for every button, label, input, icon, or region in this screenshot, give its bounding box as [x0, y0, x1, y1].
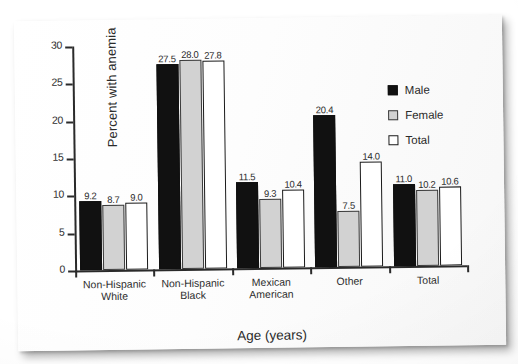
bar-value-label: 27.8: [204, 50, 221, 61]
bar-group-bars: 27.528.027.8: [156, 44, 227, 269]
bar-value-label: 11.0: [395, 173, 412, 184]
bar-value-label: 10.2: [418, 179, 435, 190]
x-axis-category-line: Other: [336, 275, 362, 287]
bar-group: 27.528.027.8Non-HispanicBlack: [156, 44, 227, 269]
y-axis-tick-label: 30: [51, 39, 62, 51]
bar-group: 9.28.79.0Non-HispanicWhite: [77, 45, 148, 270]
bar-male: 11.0: [393, 184, 416, 266]
legend-swatch-male-icon: [388, 85, 398, 95]
bar-female: 9.3: [259, 198, 282, 268]
y-axis-tick-label: 10: [53, 188, 64, 200]
bar-male: 20.4: [314, 115, 338, 268]
y-axis-tick-label: 20: [52, 113, 63, 125]
legend-item-male: Male: [388, 84, 444, 97]
legend-swatch-female-icon: [388, 110, 398, 120]
bar-male: 9.2: [79, 201, 102, 270]
bar-group-bars: 11.59.310.4: [234, 43, 305, 268]
y-axis-tick: 10: [67, 196, 74, 198]
x-axis-category-line: Non-Hispanic: [83, 278, 146, 291]
legend-label-total: Total: [405, 134, 429, 146]
x-axis-category-line: American: [249, 288, 294, 301]
x-axis-category-label: Non-HispanicWhite: [83, 278, 146, 303]
bar-group: 11.59.310.4MexicanAmerican: [234, 43, 305, 268]
bar-value-label: 28.0: [181, 49, 198, 60]
bar-total: 9.0: [125, 202, 148, 269]
y-axis-tick: 20: [66, 121, 73, 123]
bar-groups: 9.28.79.0Non-HispanicWhite27.528.027.8No…: [72, 41, 472, 46]
legend-label-female: Female: [405, 109, 444, 122]
bar-total: 27.8: [202, 61, 227, 269]
y-axis-tick-label: 5: [59, 225, 65, 237]
y-axis-tick-label: 0: [59, 263, 65, 275]
bar-female: 8.7: [102, 205, 125, 270]
bar-value-label: 9.2: [84, 190, 96, 201]
x-axis-tick: [232, 268, 234, 275]
bar-total: 10.4: [282, 190, 305, 268]
printed-page-sheet: 051015202530 Percent with anemia Age (ye…: [14, 15, 506, 351]
x-axis-title: Age (years): [76, 325, 468, 345]
x-axis-category-label: MexicanAmerican: [249, 276, 294, 301]
x-axis-category-label: Other: [336, 275, 362, 287]
bar-group: 20.47.514.0Other: [313, 42, 384, 267]
x-axis-category-label: Non-HispanicBlack: [161, 276, 224, 301]
bar-value-label: 10.6: [441, 175, 458, 186]
bar-group-bars: 9.28.79.0: [77, 45, 148, 270]
bar-value-label: 20.4: [316, 104, 333, 115]
chart-legend: Male Female Total: [388, 84, 444, 160]
y-axis-tick: 15: [67, 158, 74, 160]
bar-value-label: 9.3: [264, 187, 276, 198]
x-axis-category-line: Total: [417, 274, 439, 286]
x-axis-tick: [389, 266, 391, 273]
y-axis-tick: 25: [66, 84, 73, 86]
bar-male: 11.5: [236, 182, 259, 268]
legend-label-male: Male: [405, 84, 430, 96]
y-axis-tick: 0: [68, 270, 75, 272]
y-axis-tick: 30: [65, 46, 72, 48]
y-axis-tick-label: 25: [51, 76, 62, 88]
x-axis-category-line: White: [83, 290, 146, 303]
x-axis-tick: [75, 270, 77, 277]
page-surface: 051015202530 Percent with anemia Age (ye…: [14, 15, 506, 351]
bar-female: 7.5: [338, 211, 361, 267]
chart-photo-scene: 051015202530 Percent with anemia Age (ye…: [0, 0, 518, 364]
bar-value-label: 7.5: [342, 200, 354, 211]
x-axis-tick: [310, 267, 312, 274]
bar-value-label: 8.7: [107, 194, 119, 205]
bar-value-label: 27.5: [158, 53, 175, 64]
x-axis-category-label: Total: [417, 274, 439, 286]
x-axis-tick: [154, 269, 156, 276]
plot-area: 051015202530 Percent with anemia Age (ye…: [72, 41, 475, 302]
x-axis-category-line: Black: [161, 288, 224, 301]
y-axis-tick: 5: [68, 233, 75, 235]
bar-value-label: 10.4: [284, 179, 301, 190]
x-axis-category-line: Non-Hispanic: [161, 276, 224, 289]
bar-value-label: 11.5: [239, 171, 256, 182]
bar-group-bars: 20.47.514.0: [313, 42, 384, 267]
bar-value-label: 9.0: [130, 191, 142, 202]
legend-swatch-total-icon: [388, 135, 398, 145]
legend-item-total: Total: [388, 134, 444, 147]
bar-female: 10.2: [416, 190, 439, 266]
bar-total: 10.6: [439, 186, 462, 265]
x-axis-tick: [467, 265, 469, 272]
bar-total: 14.0: [360, 162, 383, 267]
y-axis-tick-label: 15: [52, 151, 63, 163]
bar-female: 28.0: [179, 60, 204, 269]
x-axis-category-line: Mexican: [249, 276, 294, 289]
bar-male: 27.5: [156, 64, 181, 270]
legend-item-female: Female: [388, 109, 444, 122]
bar-value-label: 14.0: [362, 151, 379, 162]
